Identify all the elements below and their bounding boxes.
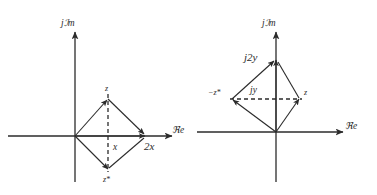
left-label-z: z <box>104 84 109 93</box>
left-vector-z <box>75 100 107 136</box>
right-label-imaginary-axis: jℐm <box>260 18 276 28</box>
left-label-x: x <box>112 142 118 152</box>
left-vector-z-conjugate <box>75 136 108 169</box>
figure-left-z-plus-zconj: z z* x 2x jℐm ℜe <box>0 0 189 195</box>
left-label-z-conjugate: z* <box>102 175 110 184</box>
right-vector-z <box>276 99 299 132</box>
left-label-real-axis: ℜe <box>172 125 184 135</box>
right-label-minus-z-conjugate: −z* <box>208 88 221 97</box>
left-parallelogram-side-upper <box>108 99 144 134</box>
right-vector-minus-z-conjugate <box>233 100 276 132</box>
left-label-imaginary-axis: jℐm <box>59 18 75 28</box>
left-label-2x: 2x <box>144 140 155 152</box>
right-label-jy: jy <box>248 85 258 95</box>
right-label-real-axis: ℜe <box>345 121 357 131</box>
right-label-j2y: j2y <box>242 51 258 63</box>
figure-right-z-minus-zconj: j2y jy −z* z jℐm ℜe <box>189 0 377 195</box>
right-parallelogram-side-right <box>278 62 299 98</box>
right-label-z: z <box>303 88 308 97</box>
figure-page: z z* x 2x jℐm ℜe <box>0 0 377 195</box>
